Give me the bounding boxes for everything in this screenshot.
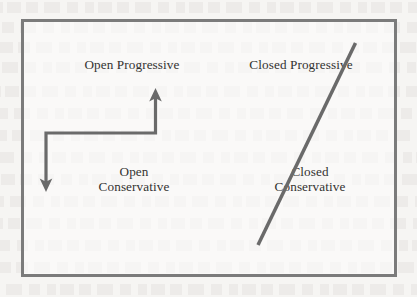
elbow-double-arrow — [40, 88, 162, 192]
diagram-canvas: Open Progressive Closed Progressive Open… — [0, 0, 417, 297]
elbow-arrow-shaft — [46, 97, 156, 184]
diagonal-line — [258, 43, 356, 245]
annotation-overlay — [0, 0, 417, 297]
